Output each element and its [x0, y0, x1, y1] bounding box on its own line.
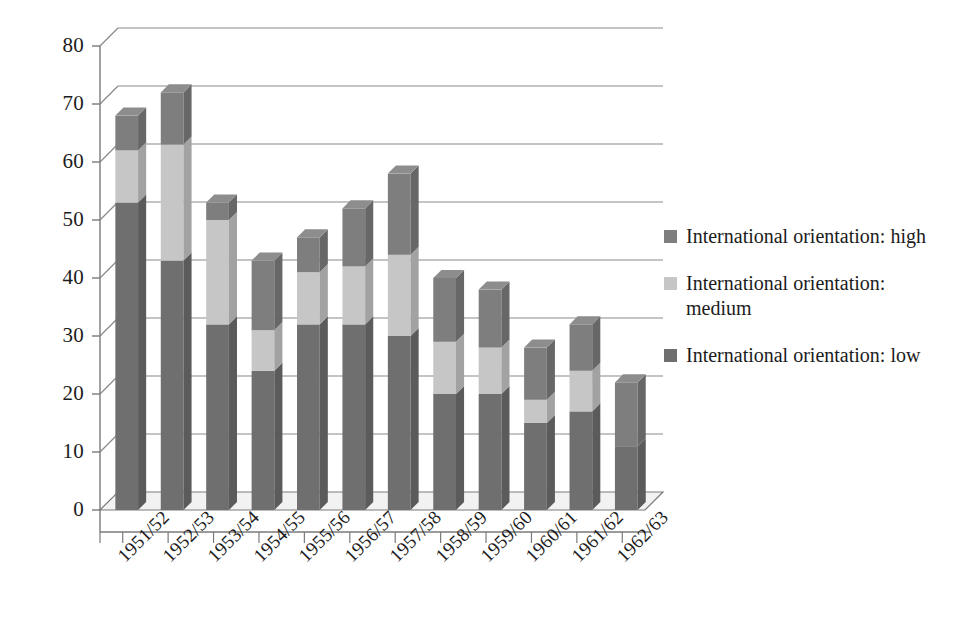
legend-label-high: International orientation: high: [686, 224, 926, 249]
y-axis-tick-label: 70: [38, 93, 84, 114]
bar-column: [206, 195, 237, 511]
legend-label-low: International orientation: low: [686, 343, 920, 368]
legend-swatch-icon-medium: [664, 277, 677, 290]
y-axis-tick-label: 80: [38, 35, 84, 56]
y-axis-tick-label: 40: [38, 267, 84, 288]
y-axis-tick-label: 10: [38, 441, 84, 462]
y-axis-tick-label: 20: [38, 383, 84, 404]
bar-column: [479, 282, 510, 511]
legend-label-medium: International orientation: medium: [686, 271, 931, 321]
chart-container: 80706050403020100 1951/521952/531953/541…: [0, 0, 979, 634]
bar-column: [388, 166, 419, 511]
legend-item-low[interactable]: International orientation: low: [664, 343, 964, 368]
bar-column: [161, 84, 192, 510]
bar-column: [297, 229, 328, 510]
legend-item-medium[interactable]: International orientation: medium: [664, 271, 964, 321]
y-axis-tick-label: 60: [38, 151, 84, 172]
bar-column: [252, 253, 283, 511]
bar-column: [570, 316, 601, 510]
bar-column: [615, 374, 646, 510]
legend-swatch-icon-high: [664, 230, 677, 243]
y-axis-tick-label: 30: [38, 325, 84, 346]
chart-legend: International orientation: high Internat…: [664, 224, 964, 390]
bar-column: [433, 270, 464, 510]
legend-item-high[interactable]: International orientation: high: [664, 224, 964, 249]
y-axis-tick-label: 0: [38, 499, 84, 520]
bar-column: [342, 200, 373, 510]
bar-column: [115, 108, 146, 511]
legend-swatch-icon-low: [664, 349, 677, 362]
bar-column: [524, 340, 555, 511]
y-axis-tick-label: 50: [38, 209, 84, 230]
